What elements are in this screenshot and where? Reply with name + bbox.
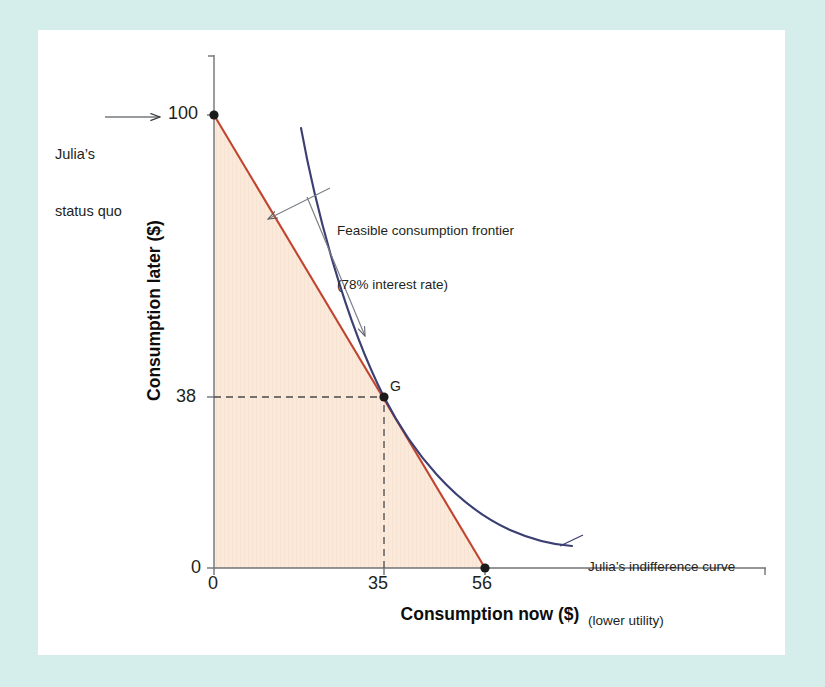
status-quo-annotation: Julia’s status quo: [55, 107, 122, 240]
frontier-annotation: Feasible consumption frontier (78% inter…: [337, 186, 514, 312]
frontier-annotation-line-1: Feasible consumption frontier: [337, 222, 514, 240]
x-axis-title: Consumption now ($): [300, 604, 680, 625]
tangency-point-g: [379, 392, 388, 401]
x-axis-tick-label-35: 35: [368, 573, 388, 594]
indifference-right-leader: [560, 535, 583, 546]
status-quo-line-1: Julia’s: [55, 145, 122, 164]
frontier-annotation-line-2: (78% interest rate): [337, 276, 514, 294]
indifference-annotation-line-1: Julia’s indifference curve: [588, 558, 735, 576]
y-axis-tick-label-0: 0: [191, 557, 201, 578]
y-axis-tick-label-38: 38: [176, 386, 196, 407]
y-axis-title: Consumption later ($): [144, 151, 165, 471]
frontier-x-intercept-point: [480, 563, 489, 572]
y-axis-tick-label-100: 100: [168, 103, 198, 124]
indifference-curve-annotation: Julia’s indifference curve (lower utilit…: [588, 522, 735, 648]
status-quo-point: [209, 110, 218, 119]
status-quo-line-2: status quo: [55, 202, 122, 221]
x-axis-tick-label-0: 0: [208, 573, 218, 594]
x-axis-tick-label-56: 56: [472, 573, 492, 594]
point-g-label: G: [390, 378, 401, 394]
